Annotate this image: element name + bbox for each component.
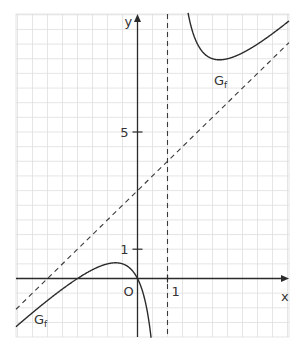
function-graph: 151 x y O Gf Gf xyxy=(0,0,306,360)
graph-label-left: Gf xyxy=(34,312,48,329)
axis-ticks: 151 xyxy=(120,125,180,299)
svg-text:1: 1 xyxy=(120,242,128,257)
svg-text:1: 1 xyxy=(172,284,180,299)
x-axis-label: x xyxy=(281,289,289,304)
origin-label: O xyxy=(124,284,134,299)
graph-right-branch xyxy=(188,13,289,60)
y-axis-label: y xyxy=(125,14,133,29)
graph-label-right: Gf xyxy=(214,73,228,90)
svg-text:5: 5 xyxy=(120,125,128,140)
